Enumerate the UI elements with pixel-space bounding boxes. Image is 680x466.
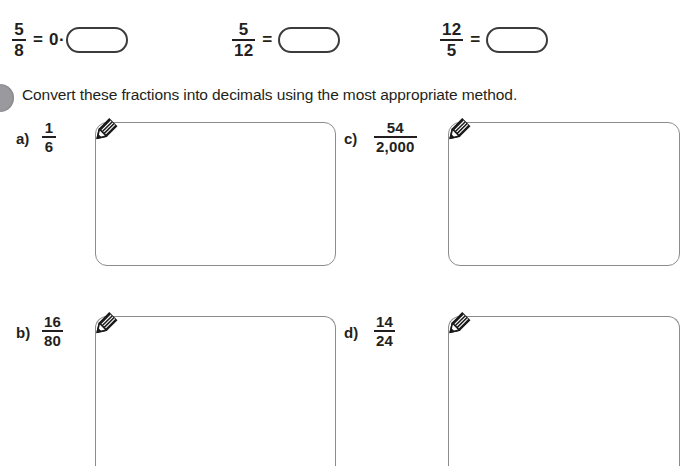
fraction-numerator: 16: [42, 314, 63, 330]
item-label-d: d): [344, 324, 358, 341]
fraction-prompt-1: 5 8 = 0·: [12, 12, 128, 68]
fraction-denominator: 6: [43, 138, 56, 154]
work-item-c: c) 54 2,000: [344, 118, 680, 268]
work-item-b: b) 16 80: [16, 312, 336, 452]
instruction-text: Convert these fractions into decimals us…: [22, 86, 517, 104]
item-label-a: a): [16, 130, 29, 147]
equals-sign: =: [262, 30, 272, 50]
instruction-row: Convert these fractions into decimals us…: [0, 80, 680, 118]
work-item-a: a) 1 6: [16, 118, 336, 268]
fraction-54-over-2000: 54 2,000: [374, 120, 417, 154]
fraction-numerator: 14: [374, 314, 395, 330]
fraction-denominator: 80: [42, 332, 63, 348]
fraction-prompt-row: 5 8 = 0· 5 12 = 12 5 =: [0, 0, 680, 78]
fraction-prompt-3: 12 5 =: [440, 12, 548, 68]
fraction-5-over-12: 5 12: [232, 21, 255, 59]
fraction-numerator: 5: [237, 21, 251, 39]
work-item-d: d) 14 24: [344, 312, 680, 452]
fraction-denominator: 5: [445, 41, 459, 59]
fraction-denominator: 8: [12, 41, 26, 59]
fraction-16-over-80: 16 80: [42, 314, 63, 348]
fraction-14-over-24: 14 24: [374, 314, 395, 348]
working-box-b[interactable]: [95, 316, 336, 466]
fraction-denominator: 2,000: [374, 138, 417, 154]
fraction-numerator: 54: [385, 120, 406, 136]
fraction-12-over-5: 12 5: [440, 21, 463, 59]
equals-sign: =: [470, 30, 480, 50]
fraction-denominator: 12: [232, 41, 255, 59]
fraction-numerator: 5: [12, 21, 26, 39]
answer-box-2[interactable]: [278, 27, 340, 53]
fraction-numerator: 1: [43, 120, 56, 136]
fraction-numerator: 12: [440, 21, 463, 39]
fraction-1-over-6: 1 6: [42, 120, 56, 154]
answer-box-1[interactable]: [66, 27, 128, 53]
working-box-d[interactable]: [448, 316, 680, 466]
decimal-prefix: 0·: [49, 30, 65, 50]
question-number-badge: [0, 84, 14, 112]
fraction-denominator: 24: [374, 332, 395, 348]
equals-sign: =: [33, 30, 43, 50]
working-box-a[interactable]: [95, 122, 336, 266]
fraction-prompt-2: 5 12 =: [232, 12, 340, 68]
item-label-b: b): [16, 324, 30, 341]
working-box-c[interactable]: [448, 122, 680, 266]
fraction-5-over-8: 5 8: [12, 21, 26, 59]
item-label-c: c): [344, 130, 357, 147]
answer-box-3[interactable]: [486, 27, 548, 53]
